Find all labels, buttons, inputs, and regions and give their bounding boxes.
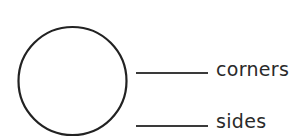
- sides-label: sides: [216, 112, 266, 131]
- sides-answer-blank[interactable]: [136, 125, 208, 127]
- corners-answer-blank[interactable]: [136, 72, 208, 74]
- corners-label: corners: [216, 60, 289, 79]
